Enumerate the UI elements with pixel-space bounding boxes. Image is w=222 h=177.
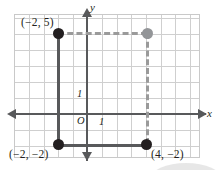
grid-line-horizontal [15, 82, 199, 83]
grid-line-horizontal [15, 98, 199, 99]
grid-line-vertical [131, 15, 132, 157]
y-axis-tick-label-one: 1 [77, 88, 82, 99]
x-axis-right-arrow-icon [198, 109, 207, 119]
grid-line-vertical [73, 15, 74, 157]
point-bottom-right [141, 139, 152, 150]
point-label-bottom-right: (4, −2) [151, 148, 184, 160]
page-edge-mask [0, 170, 222, 177]
grid-line-vertical [161, 15, 162, 157]
grid-line-horizontal [15, 66, 199, 67]
point-bottom-left [53, 139, 64, 150]
x-axis-left-arrow-icon [7, 109, 16, 119]
grid-line-vertical [44, 15, 45, 157]
x-axis-tick-label-one: 1 [99, 116, 104, 127]
grid-line-vertical [117, 15, 118, 157]
x-axis-line [16, 113, 206, 115]
segment-bottom-solid [58, 144, 147, 147]
x-axis-label: x [207, 107, 212, 119]
y-axis-label: y [90, 1, 95, 13]
point-top-left [53, 28, 64, 39]
y-axis-down-arrow-icon [82, 152, 92, 161]
grid-line-horizontal [15, 130, 199, 131]
point-label-top-left: (−2, 5) [21, 16, 54, 28]
coordinate-plane-figure: (−2, 5) (−2, −2) (4, −2) y x O 1 1 [0, 0, 222, 177]
grid-line-horizontal [15, 50, 199, 51]
segment-top-dashed [58, 32, 147, 35]
y-axis-line [86, 16, 88, 161]
point-top-right [142, 28, 153, 39]
grid-line-vertical [102, 15, 103, 157]
grid-line-vertical [190, 15, 191, 157]
grid-line-vertical [29, 15, 30, 157]
grid-line-vertical [175, 15, 176, 157]
grid-frame [14, 14, 200, 158]
point-label-bottom-left: (−2, −2) [9, 148, 48, 160]
segment-right-dashed [146, 33, 149, 144]
segment-left-solid [57, 33, 60, 145]
origin-label: O [77, 115, 85, 126]
